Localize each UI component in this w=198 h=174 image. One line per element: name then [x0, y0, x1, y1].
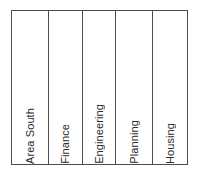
column-label-wrapper: Engineering: [83, 39, 115, 164]
column-label-wrapper: Planning: [116, 39, 152, 164]
column-label-wrapper: Finance: [49, 39, 82, 164]
column-planning[interactable]: Planning: [116, 11, 153, 164]
column-label-text: Housing: [165, 123, 176, 164]
column-label-wrapper: Housing: [153, 39, 187, 164]
column-housing[interactable]: Housing: [153, 11, 187, 164]
column-finance[interactable]: Finance: [49, 11, 83, 164]
columns-table: Area South Finance Engineering Planning …: [11, 10, 188, 165]
diagram-root: Area South Finance Engineering Planning …: [0, 0, 198, 174]
column-engineering[interactable]: Engineering: [83, 11, 116, 164]
column-label-wrapper: Area South: [12, 39, 48, 164]
column-label-text: Finance: [60, 124, 71, 164]
column-label-text: Planning: [129, 120, 140, 164]
column-label-text: Engineering: [94, 104, 105, 164]
column-area-south[interactable]: Area South: [12, 11, 49, 164]
column-label-text: Area South: [25, 108, 36, 164]
